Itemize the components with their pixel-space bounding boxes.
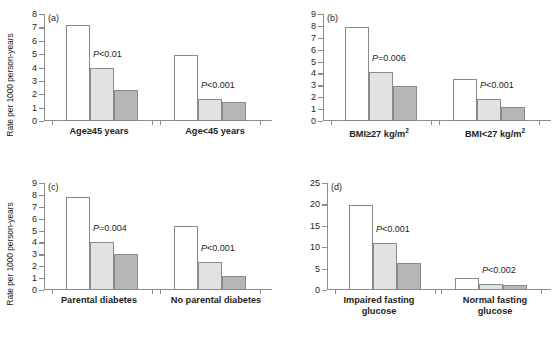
y-tick-label-d-20: 20	[310, 200, 320, 209]
y-tick-label-b-1: 1	[311, 105, 316, 114]
y-tick-label-d-25: 25	[310, 179, 320, 188]
y-tick-c-4	[39, 242, 44, 243]
y-tick-b-1	[318, 109, 323, 110]
y-tick-label-b-6: 6	[311, 45, 316, 54]
x-category-b-2: BMI<27 kg/m2	[439, 126, 551, 140]
bar-c-g2-white	[174, 226, 198, 290]
y-tick-label-a-7: 7	[32, 23, 37, 32]
y-tick-c-3	[39, 254, 44, 255]
panel-c: Rate per 1000 person-years (c) 012345678…	[0, 169, 278, 338]
x-tick-a-g1-1	[152, 121, 153, 125]
y-tick-label-a-1: 1	[32, 103, 37, 112]
bar-a-g1-light-gray	[90, 68, 114, 122]
y-tick-label-c-0: 0	[32, 286, 37, 295]
x-tick-c-g1-1	[152, 290, 153, 294]
x-tick-b-g2-0	[439, 121, 440, 125]
x-tick-b-g2-1	[539, 121, 540, 125]
y-tick-c-9	[39, 183, 44, 184]
bar-d-g2-dark-gray	[503, 285, 527, 290]
p-value-c-g1: P=0.004	[93, 224, 127, 233]
plot-area-d: 0510152025P<0.001P<0.002	[327, 183, 551, 290]
y-tick-label-d-15: 15	[310, 221, 320, 230]
y-tick-a-5	[39, 54, 44, 55]
panel-d: (d) 0510152025P<0.001P<0.002 Impaired fa…	[279, 169, 557, 338]
y-tick-label-a-3: 3	[32, 76, 37, 85]
y-tick-label-b-3: 3	[311, 81, 316, 90]
x-category-c-1: Parental diabetes	[42, 295, 156, 306]
bar-b-g1-light-gray	[369, 72, 393, 121]
y-tick-d-10	[322, 247, 327, 248]
y-tick-d-20	[322, 204, 327, 205]
x-tick-d-g1-0	[335, 290, 336, 294]
superscript-2: 2	[521, 127, 525, 134]
bar-c-g1-white	[66, 197, 90, 290]
y-axis-a	[44, 14, 45, 121]
y-tick-label-c-4: 4	[32, 238, 37, 247]
y-tick-label-b-7: 7	[311, 33, 316, 42]
y-tick-label-c-3: 3	[32, 250, 37, 259]
p-value-d-g1: P<0.001	[376, 225, 410, 234]
bar-c-g1-dark-gray	[114, 254, 138, 290]
x-category-d-2: Normal fasting glucose	[439, 295, 551, 316]
y-tick-c-1	[39, 278, 44, 279]
y-tick-b-9	[318, 14, 323, 15]
y-tick-label-b-2: 2	[311, 93, 316, 102]
y-tick-label-b-8: 8	[311, 21, 316, 30]
y-axis-label-c: Rate per 1000 person-years	[2, 169, 18, 338]
y-tick-label-d-0: 0	[315, 286, 320, 295]
y-tick-c-7	[39, 207, 44, 208]
bar-a-g1-white	[66, 25, 90, 121]
y-tick-b-2	[318, 97, 323, 98]
bar-b-g1-dark-gray	[393, 86, 417, 121]
bar-b-g1-white	[345, 27, 369, 121]
bar-c-g1-light-gray	[90, 242, 114, 290]
x-category-b-1: BMI≥27 kg/m2	[323, 126, 435, 140]
y-axis-b	[323, 14, 324, 121]
bar-d-g1-dark-gray	[397, 263, 421, 290]
y-tick-b-6	[318, 50, 323, 51]
x-tick-d-g2-1	[541, 290, 542, 294]
p-value-a-g2: P<0.001	[201, 81, 235, 90]
y-tick-label-a-5: 5	[32, 50, 37, 59]
y-tick-label-b-0: 0	[311, 117, 316, 126]
bar-b-g2-light-gray	[477, 99, 501, 121]
plot-area-b: 0123456789P=0.006P<0.001	[323, 14, 551, 121]
y-tick-a-6	[39, 41, 44, 42]
y-tick-b-4	[318, 73, 323, 74]
y-tick-c-0	[39, 290, 44, 291]
panel-a: Rate per 1000 person-years (a) 012345678…	[0, 0, 278, 169]
y-axis-c	[44, 183, 45, 290]
y-tick-label-c-1: 1	[32, 274, 37, 283]
panel-b: (b) 0123456789P=0.006P<0.001 BMI≥27 kg/m…	[279, 0, 557, 169]
y-tick-label-b-5: 5	[311, 57, 316, 66]
bar-a-g2-light-gray	[198, 99, 222, 121]
y-tick-label-c-8: 8	[32, 190, 37, 199]
x-category-c-2: No parental diabetes	[158, 295, 274, 306]
y-tick-label-d-5: 5	[315, 264, 320, 273]
y-tick-a-0	[39, 121, 44, 122]
x-tick-a-g2-0	[160, 121, 161, 125]
x-tick-a-g1-0	[52, 121, 53, 125]
y-tick-label-a-4: 4	[32, 63, 37, 72]
y-tick-d-15	[322, 226, 327, 227]
y-tick-b-7	[318, 38, 323, 39]
y-tick-label-a-8: 8	[32, 10, 37, 19]
figure-container: Rate per 1000 person-years (a) 012345678…	[0, 0, 557, 338]
bar-d-g2-light-gray	[479, 284, 503, 290]
plot-area-a: 012345678P<0.01P<0.001	[44, 14, 272, 121]
p-value-c-g2: P<0.001	[201, 244, 235, 253]
x-category-a-2: Age<45 years	[160, 126, 270, 137]
x-category-d-1: Impaired fasting glucose	[323, 295, 435, 316]
bar-a-g1-dark-gray	[114, 90, 138, 121]
y-tick-b-8	[318, 26, 323, 27]
plot-area-c: 0123456789P=0.004P<0.001	[44, 183, 272, 290]
y-tick-a-4	[39, 68, 44, 69]
y-tick-label-a-6: 6	[32, 36, 37, 45]
y-tick-a-2	[39, 94, 44, 95]
y-tick-label-c-5: 5	[32, 226, 37, 235]
y-tick-label-a-0: 0	[32, 117, 37, 126]
y-tick-a-3	[39, 81, 44, 82]
x-tick-a-g2-1	[260, 121, 261, 125]
y-tick-a-7	[39, 27, 44, 28]
y-tick-label-c-7: 7	[32, 202, 37, 211]
